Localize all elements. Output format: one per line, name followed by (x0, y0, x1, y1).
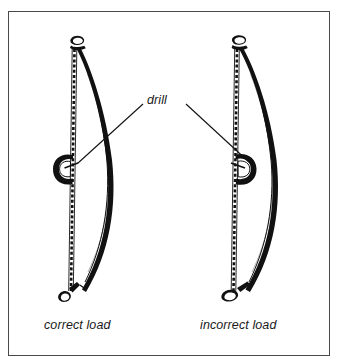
drill-spindle-dot-a-left (56, 161, 59, 164)
caption-correct-load: correct load (44, 318, 111, 332)
caption-incorrect-load: incorrect load (200, 318, 276, 332)
drill-spindle-dot-e-right (241, 182, 244, 185)
drill-spindle-inner-right (238, 161, 250, 177)
drill-spindle-dot-a-right (251, 160, 254, 163)
bow-top-nock-inner-right (234, 37, 244, 43)
drill-spindle-dot-b-right (253, 166, 256, 169)
drill-label: drill (147, 93, 167, 107)
drill-spindle-dot-c-left (55, 173, 58, 176)
drill-spindle-dot-e-left (66, 181, 69, 184)
correct-load-illustration (53, 36, 114, 302)
drill-spindle-dot-d-right (247, 179, 250, 182)
drill-spindle-dot-c-right (252, 173, 255, 176)
bow-top-nock-inner-left (73, 38, 83, 44)
drill-spindle-inner-left (60, 161, 71, 177)
drill-spindle-left (53, 154, 78, 184)
leader-line-right (186, 104, 251, 164)
incorrect-load-illustration (221, 35, 278, 301)
drill-spindle-dot-b-left (54, 166, 57, 169)
drill-spindle-dot-d-left (60, 179, 63, 182)
